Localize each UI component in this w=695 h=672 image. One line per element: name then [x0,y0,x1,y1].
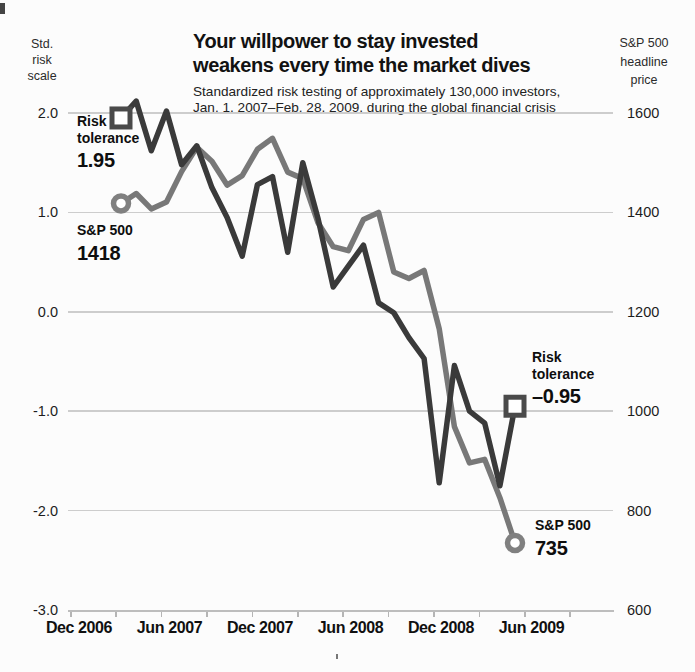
sp500-line [121,138,515,543]
risk-start-annotation: Risk tolerance 1.95 [77,113,139,171]
sp-start-value: 1418 [77,242,133,264]
sp-end-label: S&P 500 [535,517,591,534]
square-marker [506,397,524,415]
risk-start-label-line1: Risk [77,113,139,130]
sp-start-annotation: S&P 500 1418 [77,222,133,264]
risk-start-label-line2: tolerance [77,130,139,147]
sp-end-annotation: S&P 500 735 [535,517,591,559]
scan-artifact [0,3,5,14]
sp-end-value: 735 [535,537,591,559]
risk-start-value: 1.95 [77,149,139,171]
circle-marker [508,535,523,550]
risk-end-annotation: Risk tolerance –0.95 [532,349,594,407]
risk-end-label-line2: tolerance [532,366,594,383]
risk-end-label-line1: Risk [532,349,594,366]
risk-end-value: –0.95 [532,385,594,407]
scan-artifact [336,654,338,659]
plot-area [0,0,695,672]
sp-start-label: S&P 500 [77,222,133,239]
circle-marker [114,196,129,211]
